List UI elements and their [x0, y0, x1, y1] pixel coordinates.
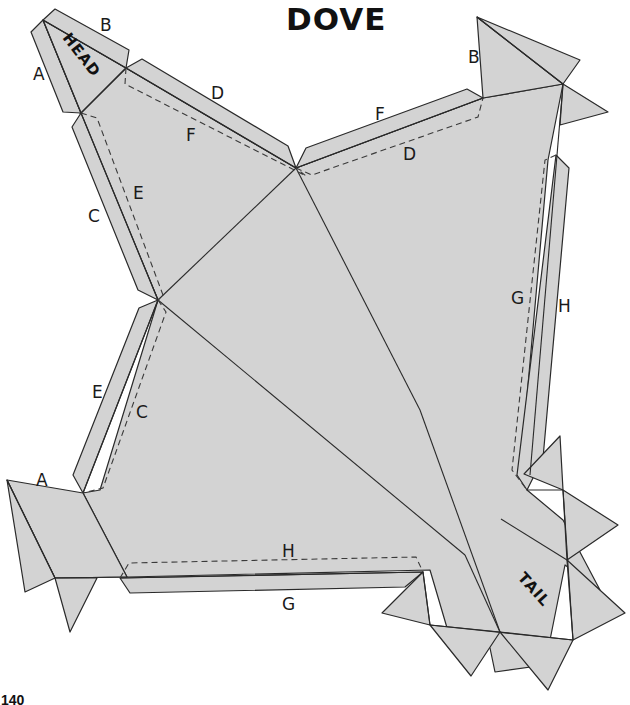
label-g-right: G: [511, 288, 524, 308]
left-bottom-triangle: [55, 578, 97, 632]
label-d-top-left: D: [211, 83, 224, 103]
label-g-bottom: G: [282, 594, 295, 614]
label-b-head: B: [100, 15, 112, 35]
label-c-left-upper: C: [88, 206, 100, 226]
label-c-left-lower: C: [136, 402, 148, 422]
label-f-top-right: F: [375, 104, 385, 124]
label-f-top-left: F: [186, 125, 196, 145]
dove-papercraft-pattern: A B D F C E B F D G H E C A H G HEAD TAI…: [0, 0, 630, 705]
tail-right-upper-triangle: [563, 490, 618, 560]
label-a-left-lower: A: [36, 470, 48, 490]
tail-right-lower-triangle: [567, 560, 625, 640]
page-number: 140: [1, 692, 24, 705]
tail-bottom-left-triangle: [430, 625, 500, 676]
label-e-left-lower: E: [92, 382, 103, 402]
label-h-bottom: H: [282, 541, 295, 561]
label-d-top-right: D: [403, 144, 416, 164]
right-small-triangle: [560, 84, 608, 125]
label-a-head: A: [33, 64, 45, 84]
label-b-top-right: B: [468, 47, 480, 67]
label-h-right: H: [558, 296, 571, 316]
label-e-left-upper: E: [133, 183, 144, 203]
